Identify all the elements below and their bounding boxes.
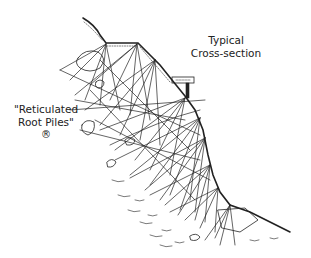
title-line-2: Cross-section xyxy=(191,47,261,59)
title-line-1: Typical xyxy=(208,34,244,46)
root-pile-network xyxy=(60,44,235,245)
root-piles-label: "Reticulated Root Piles" ® xyxy=(12,103,80,141)
retaining-structure xyxy=(172,77,194,98)
title-label: Typical Cross-section xyxy=(186,34,266,60)
registered-trademark-icon: ® xyxy=(12,129,80,141)
pile-label-line-2: Root Piles" xyxy=(18,116,74,128)
pile-label-line-1: "Reticulated xyxy=(14,103,78,115)
